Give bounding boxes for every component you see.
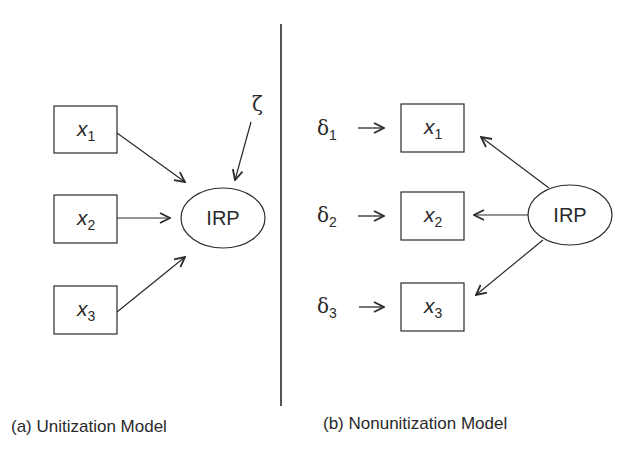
error-delta-1: δ1 — [317, 116, 337, 143]
indicator-box-x2: x2 — [401, 192, 464, 240]
caption-panel-b: (b) Nonunitization Model — [323, 414, 507, 434]
indicator-box-x3: x3 — [54, 286, 117, 334]
latent-node-irp: IRP — [528, 185, 612, 245]
panel-a-unitization: x1 x2 x3 IRP ζ — [54, 92, 265, 334]
indicator-label: x1 — [76, 117, 96, 144]
diagram-canvas: x1 x2 x3 IRP ζ x1 x2 — [0, 0, 642, 461]
indicator-label: x2 — [76, 206, 96, 233]
indicator-label: x2 — [423, 203, 443, 230]
disturbance-zeta: ζ — [252, 92, 263, 116]
error-delta-3: δ3 — [317, 294, 337, 321]
indicator-box-x1: x1 — [54, 106, 117, 153]
indicator-box-x3: x3 — [401, 283, 464, 331]
panel-b-nonunitization: x1 x2 x3 δ1 δ2 δ3 IRP — [317, 104, 612, 331]
indicator-label: x3 — [423, 294, 443, 321]
svg-text:IRP: IRP — [206, 207, 239, 229]
arrow-zeta-to-irp — [235, 122, 251, 180]
caption-panel-a: (a) Unitization Model — [11, 417, 167, 437]
latent-node-irp: IRP — [181, 188, 265, 248]
svg-text:IRP: IRP — [553, 204, 586, 226]
indicator-box-x1: x1 — [401, 104, 464, 152]
arrow-x3-to-irp — [117, 257, 185, 312]
arrow-irp-to-x1 — [481, 137, 549, 188]
arrow-irp-to-x3 — [476, 240, 543, 295]
error-delta-2: δ2 — [317, 203, 337, 230]
arrow-x1-to-irp — [117, 133, 185, 182]
indicator-label: x3 — [76, 297, 96, 324]
indicator-box-x2: x2 — [54, 195, 117, 243]
indicator-label: x1 — [423, 115, 443, 142]
